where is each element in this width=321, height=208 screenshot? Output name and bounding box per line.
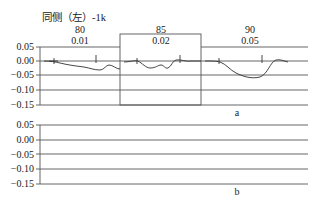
chart-canvas xyxy=(0,0,321,208)
highlight-box-85 xyxy=(120,34,201,105)
curve-80 xyxy=(44,61,120,70)
